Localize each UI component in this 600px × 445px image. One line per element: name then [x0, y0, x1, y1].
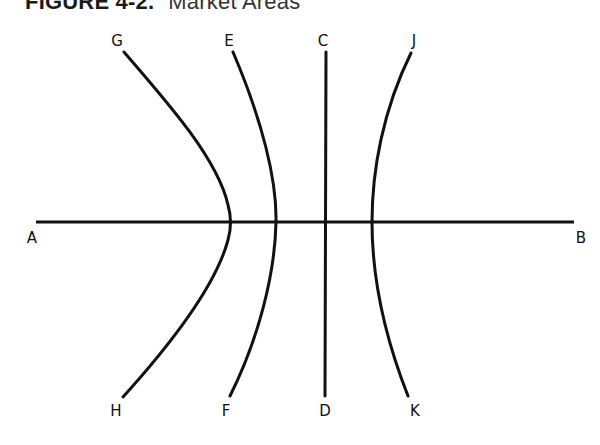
market-areas-diagram: A B G H E F C D J K [0, 0, 600, 445]
curve-j-k [372, 53, 411, 396]
point-label-b: B [576, 229, 586, 247]
curve-e-f [230, 52, 276, 396]
point-label-f: F [222, 402, 231, 420]
point-label-a: A [27, 229, 38, 247]
boundary-line-g-h: G H [110, 32, 230, 420]
point-label-d: D [319, 402, 331, 420]
axis-line-a-b: A B [27, 222, 586, 247]
point-label-j: J [411, 32, 416, 50]
point-label-k: K [410, 402, 421, 420]
curve-g-h [123, 52, 231, 397]
point-label-e: E [224, 32, 233, 50]
boundary-line-j-k: J K [372, 32, 421, 420]
boundary-line-c-d: C D [318, 32, 331, 420]
straight-line-c-d [325, 52, 326, 396]
point-label-g: G [111, 32, 123, 50]
point-label-c: C [318, 32, 328, 50]
point-label-h: H [110, 402, 121, 420]
